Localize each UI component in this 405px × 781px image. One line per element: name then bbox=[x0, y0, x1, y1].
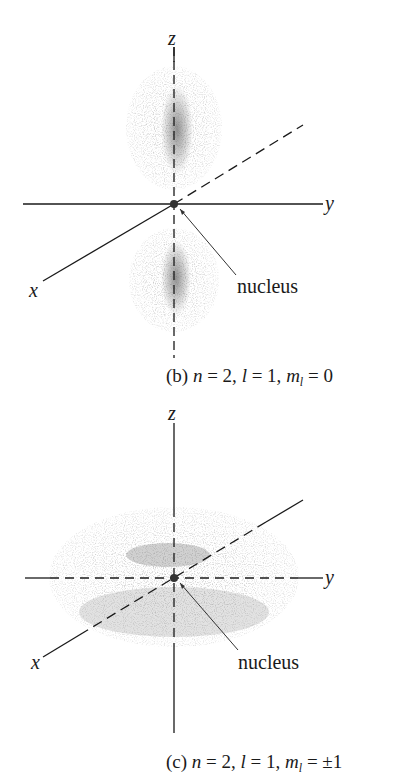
x-axis-back-solid bbox=[266, 500, 303, 522]
x-axis-label-b: x bbox=[29, 280, 38, 300]
figure-b bbox=[23, 47, 323, 358]
caption-b: (b) n = 2, l = 1, ml = 0 bbox=[166, 366, 333, 392]
x-axis-label-c: x bbox=[31, 652, 40, 672]
y-axis-label-c: y bbox=[325, 567, 334, 587]
figure-c bbox=[25, 423, 323, 733]
nucleus-dot bbox=[170, 200, 178, 208]
nucleus-label-c: nucleus bbox=[238, 652, 299, 672]
nucleus-dot bbox=[170, 574, 178, 582]
z-axis-label-b: z bbox=[168, 28, 176, 48]
upper-lobe bbox=[126, 66, 222, 190]
z-axis-label-c: z bbox=[168, 403, 176, 423]
x-axis-front-solid bbox=[43, 631, 86, 657]
y-axis-label-b: y bbox=[325, 193, 334, 213]
caption-c: (c) n = 2, l = 1, ml = ±1 bbox=[166, 752, 342, 778]
nucleus-label-b: nucleus bbox=[237, 276, 298, 296]
